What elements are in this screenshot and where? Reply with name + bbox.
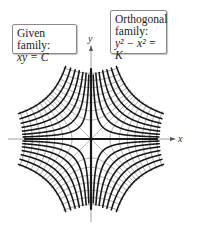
x-axis-label: x (178, 133, 182, 144)
given-family-curve (93, 75, 159, 137)
orthogonal-family-title-line2: family: (115, 25, 163, 37)
given-family-equation: xy = C (17, 51, 73, 63)
given-family-label-box: Given family: xy = C (12, 24, 77, 54)
y-axis-arrow-icon (89, 45, 93, 51)
given-family-curve (93, 141, 159, 203)
given-family-curves (19, 67, 164, 212)
orthogonal-family-label-box: Orthogonal family: y² − x² = K (110, 10, 167, 54)
orthogonal-family-equation: y² − x² = K (115, 37, 163, 61)
y-axis-label: y (88, 33, 92, 44)
given-family-title: Given family: (17, 27, 73, 51)
orthogonal-family-title-line1: Orthogonal (115, 13, 163, 25)
x-axis-arrow-icon (170, 137, 176, 141)
given-family-curve (23, 75, 89, 137)
given-family-curve (23, 141, 89, 203)
